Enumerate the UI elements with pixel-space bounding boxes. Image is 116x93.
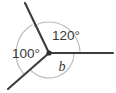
angle-label-100: 100° — [12, 46, 40, 61]
angle-diagram-canvas: 120° 100° b — [0, 0, 116, 93]
vertex-point — [46, 50, 51, 55]
angle-label-120: 120° — [52, 28, 80, 43]
angle-figure: 120° 100° b — [0, 0, 116, 93]
angle-label-b: b — [59, 59, 66, 74]
